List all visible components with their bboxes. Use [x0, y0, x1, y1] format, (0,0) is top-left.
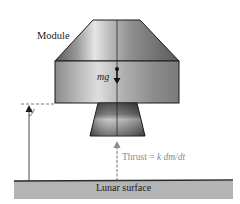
height-arrow-icon [26, 105, 33, 181]
height-label: y [30, 105, 34, 116]
lunar-module-diagram [0, 0, 240, 204]
module-label: Module [37, 30, 70, 41]
thrust-label-prefix: Thrust = [122, 152, 157, 162]
thrust-label-formula: k dm/dt [157, 152, 185, 162]
thrust-arrow-icon [114, 141, 121, 181]
lunar-surface-label: Lunar surface [14, 182, 233, 193]
thrust-label: Thrust = k dm/dt [122, 152, 185, 162]
weight-label: mg [97, 71, 109, 82]
